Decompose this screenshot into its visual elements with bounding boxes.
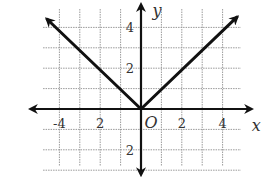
x-tick-label: 2: [96, 116, 104, 131]
x-axis-label: x: [252, 116, 261, 135]
absolute-value-graph: -4224422Oxy: [0, 0, 263, 184]
x-tick-label: -4: [53, 116, 66, 131]
y-tick-label: 4: [126, 20, 134, 35]
origin-label: O: [144, 113, 157, 132]
y-tick-label: 2: [126, 143, 134, 158]
axes: [31, 5, 251, 174]
x-tick-label: 4: [218, 116, 226, 131]
y-axis-label: y: [151, 1, 162, 20]
x-tick-label: 2: [178, 116, 186, 131]
y-tick-label: 2: [126, 61, 134, 76]
